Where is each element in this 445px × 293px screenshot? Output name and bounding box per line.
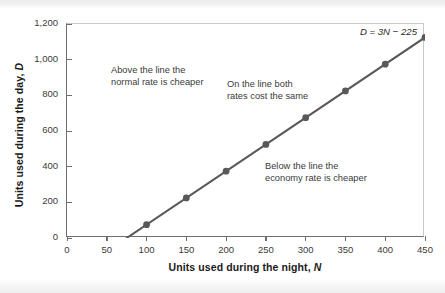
annotation-above-line-2: normal rate is cheaper: [111, 77, 204, 89]
annotation-above-line-1: Above the line the: [111, 65, 204, 77]
x-tick-mark: [226, 236, 227, 241]
data-point: [183, 194, 190, 201]
x-tick-mark: [265, 236, 266, 241]
y-tick-mark: [67, 59, 72, 60]
line-series-svg: [67, 24, 425, 238]
data-point: [382, 61, 389, 68]
x-tick-label: 200: [218, 244, 234, 255]
annotation-below-line-2: economy rate is cheaper: [265, 173, 367, 185]
x-tick-label: 150: [178, 244, 194, 255]
chart-figure: Units used during the day, D Units used …: [0, 0, 445, 293]
x-tick-label: 100: [139, 244, 155, 255]
equation-label: D = 3N − 225: [360, 26, 417, 37]
y-tick-label: 0: [53, 231, 58, 242]
x-tick-mark: [305, 236, 306, 241]
annotation-below-line-1: Below the line the: [265, 161, 367, 173]
x-tick-mark: [67, 236, 68, 241]
x-tick-mark: [186, 236, 187, 241]
x-tick-label: 250: [258, 244, 274, 255]
y-axis-title-text: Units used during the day,: [13, 74, 25, 208]
x-tick-label: 50: [101, 244, 112, 255]
y-tick-mark: [67, 166, 72, 167]
y-tick-label: 1,200: [34, 17, 58, 28]
data-point: [143, 221, 150, 228]
x-tick-mark: [106, 236, 107, 241]
y-tick-mark: [67, 24, 72, 25]
y-axis-title-variable: D: [13, 63, 25, 71]
x-tick-label: 400: [377, 244, 393, 255]
annotation-below-line: Below the line the economy rate is cheap…: [265, 161, 367, 184]
data-point: [342, 87, 349, 94]
plot-area: 02004006008001,0001,200 0501001502002503…: [66, 23, 424, 237]
y-tick-mark: [67, 131, 72, 132]
y-tick-mark: [67, 95, 72, 96]
x-tick-mark: [345, 236, 346, 241]
y-tick-mark: [67, 202, 72, 203]
x-axis-title-variable: N: [314, 261, 322, 273]
annotation-on-line: On the line both rates cost the same: [227, 79, 308, 102]
data-point: [223, 168, 230, 175]
x-axis-title: Units used during the night, N: [66, 261, 424, 273]
scan-artifact-bottom: [0, 279, 445, 293]
annotation-on-line-1: On the line both: [227, 79, 308, 91]
data-point: [262, 141, 269, 148]
y-axis-title: Units used during the day, D: [13, 30, 25, 240]
x-tick-label: 450: [417, 244, 433, 255]
y-tick-label: 600: [42, 124, 58, 135]
x-axis-title-text: Units used during the night,: [169, 261, 311, 273]
x-tick-mark: [146, 236, 147, 241]
y-tick-label: 400: [42, 160, 58, 171]
y-tick-label: 200: [42, 195, 58, 206]
y-tick-label: 1,000: [34, 53, 58, 64]
x-tick-label: 350: [338, 244, 354, 255]
scan-artifact-top: [0, 0, 445, 9]
x-tick-mark: [385, 236, 386, 241]
x-tick-mark: [425, 236, 426, 241]
annotation-on-line-2: rates cost the same: [227, 91, 308, 103]
x-tick-label: 300: [298, 244, 314, 255]
data-point: [302, 114, 309, 121]
annotation-above-line: Above the line the normal rate is cheape…: [111, 65, 204, 88]
x-tick-label: 0: [64, 244, 69, 255]
y-tick-label: 800: [42, 88, 58, 99]
